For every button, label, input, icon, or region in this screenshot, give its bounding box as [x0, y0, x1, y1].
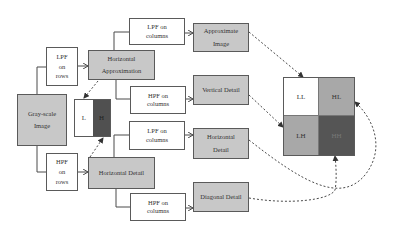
node-label: Gray-scale [28, 108, 56, 120]
node-label: Diagonal Detail [200, 191, 241, 203]
hpf-on-columns-node-1: HPF on columns [130, 86, 186, 114]
node-label: Vertical Detail [202, 84, 240, 96]
l-h-split-block: L H [74, 99, 111, 137]
node-label: LPF on [147, 23, 166, 31]
l-label: L [82, 114, 86, 122]
node-label: LPF [56, 52, 67, 62]
hh-subband: HH [319, 116, 354, 155]
node-label: columns [147, 100, 169, 108]
h-label: H [99, 114, 104, 122]
node-label: on [59, 62, 66, 72]
lpf-on-columns-node-1: LPF on columns [129, 18, 185, 45]
lh-label: LH [296, 132, 305, 140]
node-label: columns [146, 136, 168, 144]
hl-subband: HL [319, 78, 354, 116]
horizontal-detail-node: Horizontal Detail [193, 128, 249, 159]
node-label: Approximation [102, 65, 142, 77]
vertical-detail-node: Vertical Detail [193, 75, 249, 105]
approximate-image-node: Approximate Image [193, 23, 249, 52]
node-label: rows [56, 177, 69, 187]
node-label: Image [34, 120, 50, 132]
ll-label: LL [297, 93, 306, 101]
grayscale-image-node: Gray-scale Image [17, 94, 67, 146]
node-label: HPF on [148, 199, 168, 207]
hpf-on-columns-node-2: HPF on columns [130, 193, 186, 221]
node-label: Approximate [204, 25, 238, 37]
h-cell: H [93, 100, 110, 136]
subband-grid: LL HL LH HH [283, 77, 355, 156]
node-label: LPF on [147, 127, 166, 135]
hh-label: HH [331, 132, 341, 140]
node-label: rows [56, 71, 69, 81]
l-cell: L [75, 100, 93, 136]
node-label: Image [213, 38, 229, 50]
horizontal-approximation-node: Horizontal Approximation [88, 50, 155, 80]
node-label: Horizontal Detail [99, 167, 144, 179]
node-label: Horizontal [108, 53, 136, 65]
ll-subband: LL [284, 78, 319, 116]
diagonal-detail-node: Diagonal Detail [193, 182, 249, 212]
node-label: HPF [56, 157, 68, 167]
node-label: HPF on [148, 92, 168, 100]
node-label: columns [146, 32, 168, 40]
node-label: Horizontal [207, 131, 235, 143]
node-label: Detail [213, 144, 229, 156]
hl-label: HL [332, 93, 341, 101]
lpf-on-rows-node: LPF on rows [46, 47, 78, 86]
lh-subband: LH [284, 116, 319, 155]
hpf-on-rows-node: HPF on rows [46, 153, 78, 191]
horizontal-detail-mid-node: Horizontal Detail [88, 157, 155, 189]
node-label: on [59, 167, 66, 177]
lpf-on-columns-node-2: LPF on columns [129, 121, 185, 150]
node-label: columns [147, 207, 169, 215]
